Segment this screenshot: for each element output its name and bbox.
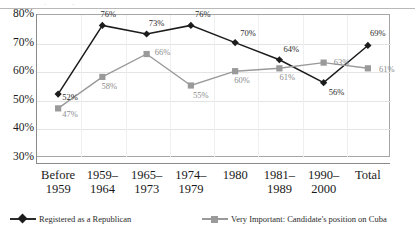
- legend-diamond-marker-icon: [10, 214, 36, 224]
- gridline-vertical: [258, 15, 259, 158]
- gridline-vertical: [170, 15, 171, 158]
- data-point-label: 76%: [100, 10, 116, 19]
- y-axis-tick-label: 50%: [0, 94, 34, 106]
- y-axis-line: [36, 14, 37, 164]
- x-axis-tick-label: Before 1959: [36, 168, 80, 196]
- artifact-fragment-1: .: [44, 0, 46, 7]
- gridline-vertical: [214, 15, 215, 158]
- y-axis-tick-label: 30%: [0, 151, 34, 163]
- chart-container: . . 80%70%60%50%40%30% Registered as a R…: [0, 0, 415, 236]
- y-axis-tick-label: 60%: [0, 65, 34, 77]
- legend-square-marker-icon: [202, 214, 228, 224]
- data-point-label: 56%: [329, 88, 345, 97]
- data-point-label: 47%: [62, 110, 78, 119]
- gridline-vertical: [81, 15, 82, 158]
- x-axis-tick-label: 1990– 2000: [302, 168, 346, 196]
- gridline-vertical: [347, 15, 348, 158]
- data-point-label: 61%: [379, 65, 395, 74]
- data-point-label: 52%: [62, 93, 78, 102]
- x-axis-tick-label: Total: [346, 168, 390, 182]
- data-point-label: 58%: [101, 82, 117, 91]
- legend-label-1: Registered as a Republican: [39, 214, 131, 224]
- x-axis-line: [36, 163, 390, 164]
- legend-item-registered-republican: Registered as a Republican: [10, 214, 131, 224]
- data-point-label: 64%: [283, 45, 299, 54]
- artifact-fragment-2: .: [72, 0, 74, 7]
- data-point-label: 61%: [279, 73, 295, 82]
- y-axis-tick-label: 80%: [0, 8, 34, 20]
- data-point-label: 69%: [370, 29, 386, 38]
- data-point-label: 70%: [240, 29, 256, 38]
- x-axis-tick-label: 1974– 1979: [169, 168, 213, 196]
- data-point-label: 76%: [195, 10, 211, 19]
- data-point-label: 66%: [155, 48, 171, 57]
- data-point-label: 60%: [234, 76, 250, 85]
- legend-item-cuba-position: Very Important: Candidate's position on …: [202, 214, 387, 224]
- plot-area: [36, 14, 390, 157]
- data-point-label: 63%: [334, 58, 350, 67]
- x-axis-tick-label: 1980: [213, 168, 257, 182]
- data-point-label: 73%: [149, 19, 165, 28]
- y-axis-tick-label: 70%: [0, 37, 34, 49]
- gridline-vertical: [303, 15, 304, 158]
- gridline-vertical: [126, 15, 127, 158]
- x-axis-tick-label: 1981– 1989: [257, 168, 301, 196]
- x-axis-tick-label: 1965– 1973: [125, 168, 169, 196]
- data-point-label: 55%: [193, 91, 209, 100]
- y-axis: 80%70%60%50%40%30%: [0, 0, 34, 236]
- chart-legend: Registered as a Republican Very Importan…: [10, 214, 410, 230]
- legend-label-2: Very Important: Candidate's position on …: [231, 214, 387, 224]
- x-axis-tick-label: 1959– 1964: [80, 168, 124, 196]
- y-axis-tick-label: 40%: [0, 122, 34, 134]
